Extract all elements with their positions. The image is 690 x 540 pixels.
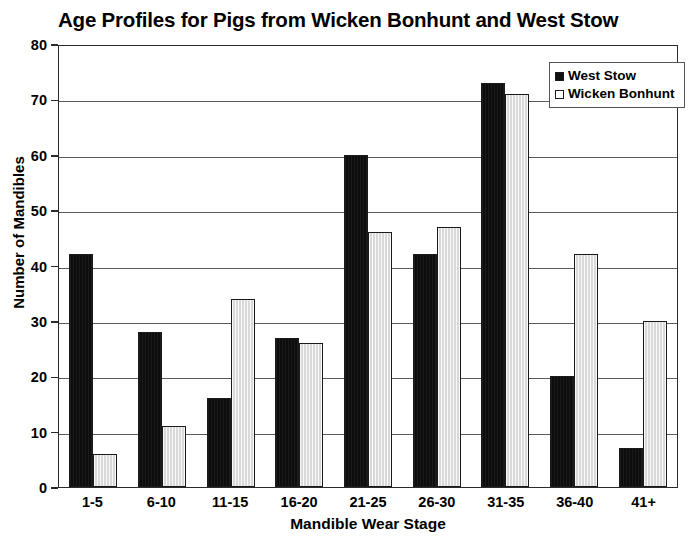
chart-title: Age Profiles for Pigs from Wicken Bonhun… — [58, 6, 688, 34]
y-tick-mark — [51, 321, 58, 323]
y-tick-mark — [51, 44, 58, 46]
bar — [481, 83, 505, 487]
y-tick-label: 70 — [3, 93, 47, 107]
bar — [162, 426, 186, 487]
bar — [643, 321, 667, 487]
bar-group — [334, 46, 403, 487]
x-tick-label: 21-25 — [334, 492, 403, 514]
x-tick-label: 41+ — [609, 492, 678, 514]
legend-item: West Stow — [555, 67, 680, 85]
y-tick-mark — [51, 210, 58, 212]
y-tick-mark — [51, 155, 58, 157]
y-tick-mark — [51, 266, 58, 268]
bar-group — [540, 46, 609, 487]
bar — [93, 454, 117, 487]
x-tick-label: 36-40 — [540, 492, 609, 514]
y-tick-label: 10 — [3, 426, 47, 440]
bar — [619, 448, 643, 487]
x-tick-label: 16-20 — [265, 492, 334, 514]
legend-swatch-icon — [555, 90, 564, 99]
y-tick-label: 20 — [3, 370, 47, 384]
bar — [574, 254, 598, 487]
bar — [231, 299, 255, 487]
bar — [207, 398, 231, 487]
plot-area — [58, 45, 678, 488]
bar — [344, 155, 368, 487]
x-axis: 1-56-1011-1516-2021-2526-3031-3536-4041+ — [58, 492, 678, 514]
y-tick-label: 80 — [3, 38, 47, 52]
y-tick-mark — [51, 377, 58, 379]
bar-group — [471, 46, 540, 487]
y-tick-mark — [51, 100, 58, 102]
y-tick-mark — [51, 432, 58, 434]
bar — [413, 254, 437, 487]
bar-group — [59, 46, 128, 487]
bar — [138, 332, 162, 487]
x-tick-label: 26-30 — [402, 492, 471, 514]
x-tick-label: 1-5 — [58, 492, 127, 514]
bar-group — [128, 46, 197, 487]
bar — [437, 227, 461, 487]
bar-group — [265, 46, 334, 487]
y-axis-title: Number of Mandibles — [10, 128, 27, 338]
bars-layer — [59, 46, 677, 487]
y-tick-mark — [51, 487, 58, 489]
bar-chart: Age Profiles for Pigs from Wicken Bonhun… — [0, 0, 690, 540]
legend-label: West Stow — [568, 68, 636, 84]
bar — [299, 343, 323, 487]
x-tick-label: 6-10 — [127, 492, 196, 514]
legend-label: Wicken Bonhunt — [568, 86, 674, 102]
x-tick-label: 11-15 — [196, 492, 265, 514]
bar — [275, 338, 299, 488]
bar-group — [608, 46, 677, 487]
chart-legend: West StowWicken Bonhunt — [549, 62, 685, 108]
x-axis-title: Mandible Wear Stage — [58, 515, 678, 533]
bar — [550, 376, 574, 487]
bar — [368, 232, 392, 487]
bar-group — [402, 46, 471, 487]
bar-group — [196, 46, 265, 487]
legend-swatch-icon — [555, 72, 564, 81]
bar — [69, 254, 93, 487]
x-tick-label: 31-35 — [471, 492, 540, 514]
y-tick-label: 0 — [3, 481, 47, 495]
bar — [505, 94, 529, 487]
legend-item: Wicken Bonhunt — [555, 85, 680, 103]
